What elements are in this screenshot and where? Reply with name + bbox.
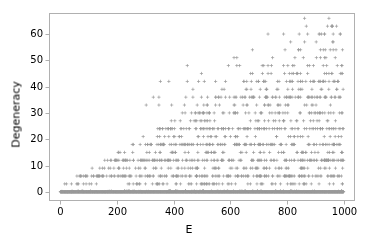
x-axis-label: E <box>0 223 378 236</box>
scatter-plot-canvas <box>0 0 378 250</box>
y-axis-label: Degeneracy <box>10 55 23 175</box>
scatter-chart-figure: E Degeneracy <box>0 0 378 250</box>
